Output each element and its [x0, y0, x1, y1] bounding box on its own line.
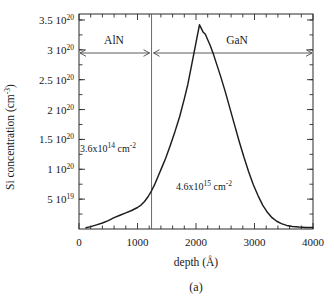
dose-left-unit: cm [115, 143, 130, 154]
region-label-gan: GaN [226, 34, 248, 46]
dose-left-mantissa: 3.6x10 [80, 143, 108, 154]
x-axis-tick-labels: 01000200030004000 [76, 236, 324, 248]
dose-left-unit-exp: -2 [130, 141, 136, 150]
x-tick-label: 0 [76, 236, 82, 248]
y-tick-label: 2 1020 [47, 103, 74, 116]
y-axis-title: Si concentration (cm-3) [3, 84, 17, 190]
x-tick-label: 1000 [127, 236, 150, 248]
svg-text:Si concentration (cm-3): Si concentration (cm-3) [3, 84, 17, 190]
y-axis-title-close: ) [4, 84, 17, 88]
y-tick-label: 1.5 1020 [39, 132, 74, 145]
figure-container: 3.5 10203 10202.5 10202 10201.5 10201 10… [0, 0, 334, 303]
x-tick-label: 4000 [302, 236, 325, 248]
simsprofile-chart: 3.5 10203 10202.5 10202 10201.5 10201 10… [0, 0, 334, 303]
dose-right-unit: cm [211, 181, 226, 192]
y-tick-label: 5 1019 [47, 192, 74, 205]
si-concentration-curve [86, 25, 313, 228]
y-axis-tick-labels: 3.5 10203 10202.5 10202 10201.5 10201 10… [39, 13, 74, 205]
y-tick-label: 3.5 1020 [39, 13, 74, 26]
region-arrows [80, 50, 312, 57]
figure-caption: (a) [189, 280, 202, 294]
x-tick-label: 3000 [244, 236, 267, 248]
y-axis-title-text: Si concentration (cm [4, 94, 17, 190]
dose-annotation-right: 4.6x1015 cm-2 [176, 179, 232, 192]
y-tick-label: 2.5 1020 [39, 73, 74, 86]
x-axis-title: depth (Å) [174, 255, 219, 269]
dose-annotation-left: 3.6x1014 cm-2 [80, 141, 136, 154]
dose-right-mantissa: 4.6x10 [176, 181, 204, 192]
y-tick-label: 3 1020 [47, 43, 74, 56]
y-tick-label: 1 1020 [47, 162, 74, 175]
dose-right-unit-exp: -2 [226, 179, 232, 188]
region-label-aln: AlN [104, 34, 125, 46]
x-tick-label: 2000 [185, 236, 208, 248]
